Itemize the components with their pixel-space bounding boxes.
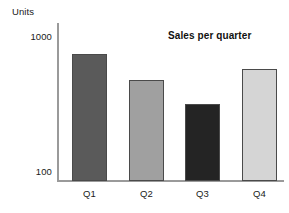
y-axis-tick-1000: 1000: [0, 31, 52, 43]
bar-chart: Units 1000 100 Sales per quarter Q1Q2Q3Q…: [0, 0, 289, 213]
x-axis-label-q2: Q2: [129, 188, 164, 199]
y-axis-tick-100: 100: [0, 166, 52, 178]
x-axis-label-q4: Q4: [242, 188, 277, 199]
bars-container: [57, 23, 284, 181]
bar-q2: [129, 80, 164, 181]
bar-q4: [242, 69, 277, 181]
bar-q3: [185, 104, 220, 181]
y-axis-tick-label: 1000: [30, 31, 52, 42]
y-axis-tick-label: 100: [36, 166, 52, 177]
x-axis-label-q3: Q3: [185, 188, 220, 199]
x-axis-labels: Q1Q2Q3Q4: [57, 188, 284, 204]
x-axis-label-q1: Q1: [72, 188, 107, 199]
bar-q1: [72, 54, 107, 181]
y-axis-title: Units: [12, 6, 34, 17]
